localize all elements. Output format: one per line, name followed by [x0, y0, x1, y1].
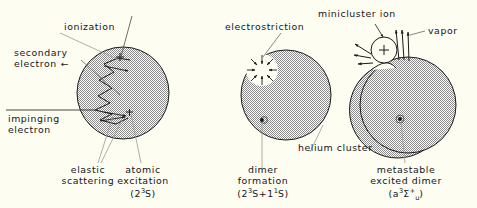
- leader-ionization: [60, 33, 119, 60]
- label-electrostriction: electrostriction: [225, 22, 304, 33]
- label-vapor: vapor: [428, 26, 458, 37]
- impinging-electron-line1: impinging: [8, 114, 60, 125]
- metastable-line2: excited dimer: [358, 176, 454, 187]
- minicluster-escape-arrows: [354, 44, 373, 64]
- label-helium-cluster: helium cluster: [298, 143, 373, 154]
- vapor-arrows: [396, 30, 409, 61]
- dimer-mid: S+1: [252, 188, 273, 199]
- atomic-line2: excitation: [104, 176, 182, 187]
- meta-paren-close: ): [419, 188, 423, 199]
- metastable-line3: (a3Σ+u): [358, 186, 454, 204]
- atomic-line1: atomic: [104, 165, 182, 176]
- label-atomic-excitation: atomic excitation (23S): [104, 165, 182, 200]
- leader-minicluster-ion: [375, 24, 383, 37]
- dimer-paren-open: (2: [237, 188, 248, 199]
- impinging-electron-line2: electron: [8, 125, 60, 136]
- atomic-paren-open: (2: [130, 188, 141, 199]
- left-helium-cluster-circle: [77, 47, 169, 139]
- label-secondary-electron: secondary electron ←: [14, 48, 69, 69]
- leader-vapor: [410, 31, 425, 35]
- label-minicluster-ion: minicluster ion: [318, 9, 396, 20]
- dimer-line1: dimer: [222, 165, 304, 176]
- meta-paren-open: (a: [388, 188, 399, 199]
- dimer-line3: (23S+11S): [222, 186, 304, 200]
- metastable-line1: metastable: [358, 165, 454, 176]
- dimer-term: S): [278, 188, 289, 199]
- atomic-line3: (23S): [104, 186, 182, 200]
- label-metastable-excited-dimer: metastable excited dimer (a3Σ+u): [358, 165, 454, 204]
- right-helium-cluster-circle: [360, 57, 456, 153]
- secondary-electron-line1: secondary: [14, 48, 69, 59]
- label-impinging-electron: impinging electron: [8, 114, 60, 135]
- secondary-electron-arrow-icon: ←: [61, 59, 69, 70]
- secondary-electron-line2: electron: [14, 59, 57, 70]
- label-dimer-formation: dimer formation (23S+11S): [222, 165, 304, 200]
- dimer-line2: formation: [222, 176, 304, 187]
- label-ionization: ionization: [64, 22, 115, 33]
- metastable-dimer-dot: [398, 117, 402, 121]
- atomic-term: S): [145, 188, 156, 199]
